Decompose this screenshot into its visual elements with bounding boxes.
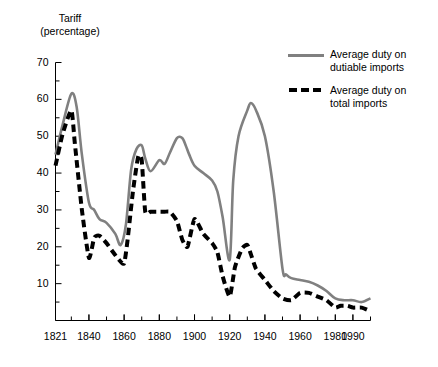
legend-item-dutiable: Average duty on dutiable imports	[330, 48, 434, 73]
legend-label-total-line-1: Average duty on	[330, 84, 434, 97]
legend-label-dutiable-line-2: dutiable imports	[330, 61, 434, 74]
legend-item-total: Average duty on total imports	[330, 84, 434, 109]
legend-label-total-line-2: total imports	[330, 97, 434, 110]
legend-swatch-total	[288, 86, 326, 94]
legend-swatch-dutiable	[288, 54, 324, 57]
legend-label-dutiable-line-1: Average duty on	[330, 48, 434, 61]
axes	[56, 63, 371, 321]
series-line-dutiable-imports	[56, 93, 371, 302]
data-series	[56, 93, 371, 311]
series-line-total-imports	[56, 110, 371, 311]
tariff-line-chart: Tariff (percentage) 10203040506070 18211…	[0, 0, 438, 367]
